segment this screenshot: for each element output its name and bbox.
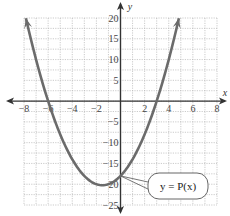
- x-tick-label: −4: [67, 103, 78, 114]
- callout-leader: [121, 176, 149, 182]
- callout: y = P(x): [121, 173, 209, 199]
- x-tick-label: 2: [142, 103, 147, 114]
- y-tick-label: 15: [109, 33, 119, 44]
- x-tick-label: −2: [91, 103, 102, 114]
- y-tick-label: −10: [103, 137, 119, 148]
- y-tick-label: 10: [109, 54, 119, 65]
- callout-label: y = P(x): [160, 180, 196, 193]
- y-tick-label: 5: [114, 75, 119, 86]
- curve-arrow-icons: [24, 18, 180, 29]
- x-tick-label: 6: [190, 103, 195, 114]
- y-axis-label: y: [127, 1, 133, 12]
- y-tick-label: −25: [103, 200, 119, 211]
- x-tick-label: 8: [215, 103, 220, 114]
- x-axis-label: x: [222, 87, 228, 98]
- y-tick-label: 20: [109, 13, 119, 24]
- x-tick-label: 4: [166, 103, 171, 114]
- callout-leader: [121, 176, 151, 190]
- y-tick-label: −15: [103, 158, 119, 169]
- y-tick-label: −5: [108, 116, 119, 127]
- x-tick-label: −8: [19, 103, 30, 114]
- parabola-chart: −8−6−4−224682015105−5−10−15−20−25 y = P(…: [0, 0, 230, 216]
